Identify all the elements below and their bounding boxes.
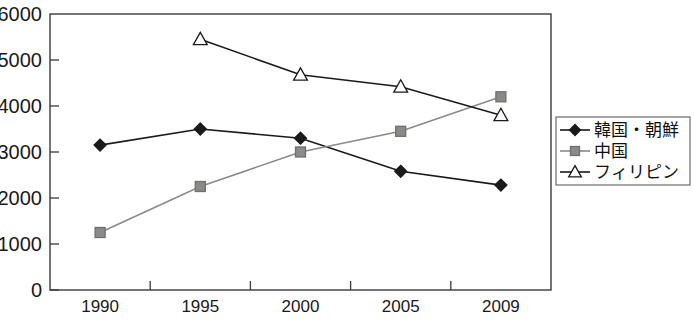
y-tick-label: 3000 — [0, 141, 42, 163]
y-tick-label: 5000 — [0, 49, 42, 71]
x-tick-label: 2009 — [482, 297, 520, 316]
legend-label: 韓国・朝鮮 — [594, 120, 679, 140]
y-tick-label: 6000 — [0, 3, 42, 25]
y-tick-label: 0 — [31, 279, 42, 301]
y-tick-label: 1000 — [0, 233, 42, 255]
data-point-square — [95, 228, 105, 238]
data-point-square — [195, 182, 205, 192]
line-chart: 0100020003000400050006000 19901995200020… — [0, 0, 694, 336]
y-tick-label: 2000 — [0, 187, 42, 209]
data-point-square — [496, 92, 506, 102]
y-tick-label: 4000 — [0, 95, 42, 117]
data-point-square — [296, 147, 306, 157]
x-tick-label: 1990 — [81, 297, 119, 316]
chart-legend: 韓国・朝鮮中国フィリピン — [556, 117, 690, 185]
legend-label: 中国 — [594, 141, 628, 161]
data-point-square — [396, 126, 406, 136]
x-tick-label: 2000 — [282, 297, 320, 316]
x-tick-label: 1995 — [181, 297, 219, 316]
legend-label: フィリピン — [594, 162, 679, 182]
x-tick-label: 2005 — [382, 297, 420, 316]
data-point-square — [571, 147, 580, 156]
chart-canvas: 0100020003000400050006000 19901995200020… — [0, 0, 694, 336]
